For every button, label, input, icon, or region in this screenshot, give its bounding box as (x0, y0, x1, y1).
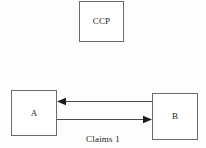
node-b-label: B (172, 112, 178, 121)
edge-b-to-a (57, 98, 152, 105)
edge-caption-claims: Claims 1 (0, 135, 206, 144)
node-a-label: A (31, 109, 38, 118)
arrowhead-pointing-at-a (57, 98, 66, 105)
node-ccp-label: CCP (93, 17, 111, 26)
edge-a-to-b (57, 116, 152, 123)
arrowhead-pointing-at-b (143, 116, 152, 123)
node-b[interactable]: B (152, 93, 198, 140)
node-ccp[interactable]: CCP (79, 1, 124, 42)
diagram-canvas: CCP A B Claims 1 (0, 0, 206, 148)
node-a[interactable]: A (11, 90, 57, 136)
